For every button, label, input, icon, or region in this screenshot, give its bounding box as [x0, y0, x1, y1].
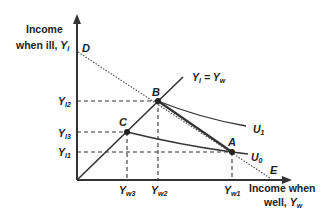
tick-yw1: Yw1 [224, 184, 240, 197]
point-c-dot [124, 129, 130, 135]
insurance-diagram: D B C A E Income when ill, YI Income whe… [0, 0, 330, 221]
x-axis-label-line2: well, Yw [263, 196, 303, 209]
tick-yw3: Yw3 [119, 184, 135, 197]
point-c-label: C [119, 116, 128, 128]
u0-label: U0 [251, 151, 263, 164]
y-axis-arrow-icon [73, 14, 81, 24]
certainty-line [77, 77, 183, 180]
tick-yw2: Yw2 [151, 184, 167, 197]
x-axis-label-line1: Income when [249, 182, 316, 194]
y-axis-label-line2: when ill, YI [15, 39, 70, 52]
tick-yi3: YI3 [58, 127, 71, 140]
point-a-dot [229, 149, 235, 155]
point-b-label: B [152, 86, 160, 98]
line-ba [158, 101, 232, 152]
y-axis-label-line1: Income [26, 23, 63, 35]
u1-label: U1 [253, 123, 265, 136]
point-b-dot [155, 98, 161, 104]
point-e-label: E [270, 164, 278, 176]
point-a-label: A [227, 136, 236, 148]
certainty-line-label: YI = Yw [192, 71, 226, 84]
tick-yi1: YI1 [58, 146, 71, 159]
point-d-label: D [82, 42, 90, 54]
budget-line-de [78, 52, 270, 178]
tick-yi2: YI2 [58, 95, 71, 108]
